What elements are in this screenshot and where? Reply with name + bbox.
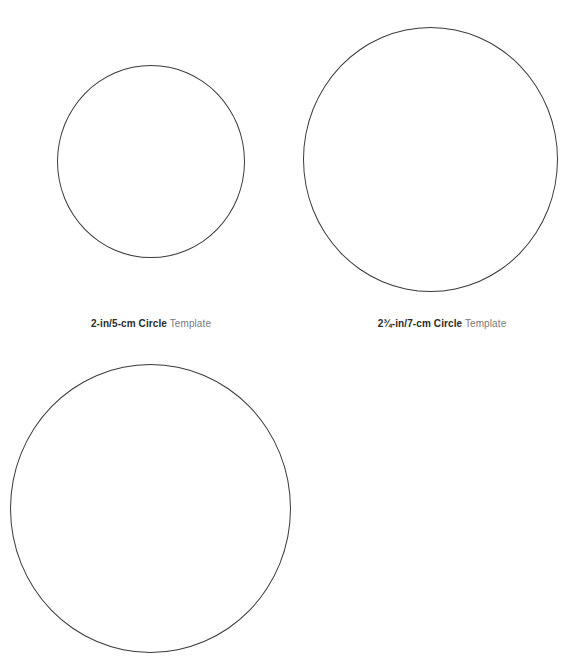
circle-template-large [10, 364, 291, 653]
label-template-text: Template [465, 318, 506, 329]
label-template-text: Template [170, 318, 211, 329]
circle-label-2-3-4in: 2¾-in/7-cm Circle Template [378, 318, 507, 329]
circle-template-2-3-4in [303, 27, 558, 292]
circle-template-2in [57, 65, 245, 258]
label-size-text: 2¾-in/7-cm Circle [378, 318, 463, 329]
label-size-text: 2-in/5-cm Circle [91, 318, 167, 329]
circle-label-2in: 2-in/5-cm Circle Template [91, 318, 211, 329]
